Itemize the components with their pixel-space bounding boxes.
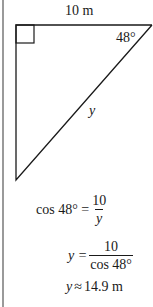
hypotenuse-label: y	[89, 104, 95, 118]
fraction-denominator: cos 48°	[89, 255, 133, 272]
triangle-outline	[16, 25, 152, 180]
approx-sign: ≈	[74, 280, 82, 294]
fraction: 10 cos 48°	[89, 240, 133, 272]
equation-lhs: cos 48° =	[36, 203, 89, 217]
result-variable: y	[66, 280, 72, 294]
angle-label: 48°	[116, 31, 136, 45]
fraction-denominator: y	[95, 209, 103, 226]
equation-solve-y: y = 10 cos 48°	[68, 240, 133, 272]
equation-result: y ≈ 14.9 m	[66, 280, 123, 294]
top-side-label: 10 m	[65, 4, 93, 18]
result-value: 14.9 m	[84, 280, 123, 294]
fraction: 10 y	[91, 194, 107, 226]
equation-lhs: y =	[68, 249, 87, 263]
right-angle-marker	[16, 25, 34, 43]
fraction-numerator: 10	[91, 194, 107, 209]
fraction-numerator: 10	[103, 240, 119, 255]
equation-cosine: cos 48° = 10 y	[36, 194, 107, 226]
